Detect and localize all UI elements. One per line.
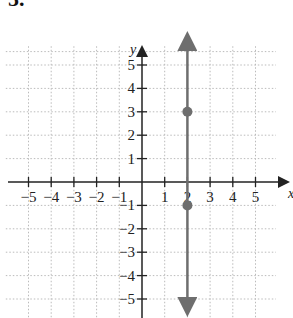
x-tick-label: −4 [43, 189, 59, 205]
x-tick-label: 1 [161, 189, 169, 205]
x-tick-label: −2 [89, 189, 105, 205]
y-tick-label: −3 [119, 244, 135, 260]
x-tick-label: 3 [206, 189, 214, 205]
y-tick-label: −4 [119, 268, 135, 284]
y-tick-label: −1 [119, 197, 135, 213]
x-tick-label: −5 [21, 189, 37, 205]
coordinate-plane: yx−5−4−3−2−112345−5−4−3−2−112345 [0, 0, 293, 318]
y-tick-label: −5 [119, 291, 135, 307]
y-tick-label: 5 [128, 57, 136, 73]
y-tick-label: −2 [119, 221, 135, 237]
y-axis-label: y [128, 42, 137, 57]
y-tick-label: 1 [128, 151, 136, 167]
data-point [182, 200, 192, 210]
data-point [182, 107, 192, 117]
x-tick-label: 5 [252, 189, 260, 205]
y-tick-label: 3 [128, 104, 136, 120]
x-tick-label: −3 [66, 189, 82, 205]
y-tick-label: 4 [128, 80, 136, 96]
x-axis-label: x [287, 186, 293, 201]
y-tick-label: 2 [128, 127, 136, 143]
x-tick-label: 4 [229, 189, 237, 205]
